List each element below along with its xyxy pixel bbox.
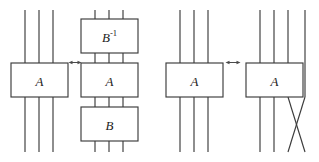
equivalence-arrow-2-head-left — [226, 61, 230, 65]
group-3-left-A: A — [166, 10, 223, 152]
gate-label-a-4: A — [270, 74, 279, 89]
equivalence-arrow-2 — [226, 61, 241, 65]
gate-label-a-2: A — [105, 74, 114, 89]
figure-canvas: A B-1 A B A — [0, 0, 319, 162]
group-1-left-A: A — [11, 10, 68, 152]
gate-label-a-1: A — [35, 74, 44, 89]
equivalence-arrow-1-head-left — [69, 61, 73, 65]
braid-diagram: A B-1 A B A — [0, 0, 319, 162]
group-4-A-with-crossing: A — [246, 10, 305, 152]
gate-label-b-2: B — [106, 118, 114, 133]
equivalence-arrow-1 — [69, 61, 82, 65]
group-2-binv-a-b: B-1 A B — [81, 10, 138, 152]
equivalence-arrow-2-head-right — [237, 61, 241, 65]
gate-label-a-3: A — [190, 74, 199, 89]
